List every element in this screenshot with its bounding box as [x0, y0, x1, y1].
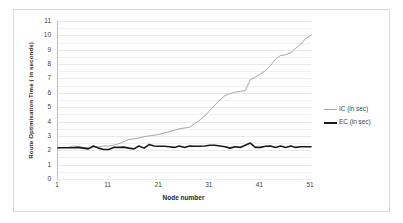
x-tick-label-21: 21 [155, 182, 162, 189]
y-axis-tick-labels: 01234567891011 [38, 15, 51, 181]
y-axis-title: Route Optimisation Time ( in seconds) [22, 10, 38, 190]
y-tick-label-8: 8 [38, 61, 51, 68]
y-tick-label-6: 6 [38, 90, 51, 97]
legend-label: EC (in sec) [339, 119, 371, 125]
x-axis-title: Node number [57, 194, 310, 201]
legend-item-ic[interactable]: IC (in sec) [324, 103, 386, 116]
x-tick-label-51: 51 [306, 182, 313, 189]
x-axis-tick-labels: 11121314151 [57, 182, 310, 194]
series-line-ec [58, 143, 311, 149]
y-tick-label-3: 3 [38, 133, 51, 140]
legend-item-ec[interactable]: EC (in sec) [324, 116, 386, 129]
y-tick-label-0: 0 [38, 176, 51, 183]
y-tick-label-4: 4 [38, 118, 51, 125]
chart-legend: IC (in sec)EC (in sec) [324, 103, 386, 129]
legend-label: IC (in sec) [339, 106, 368, 112]
gridline [58, 179, 311, 180]
x-tick-label-11: 11 [104, 182, 111, 189]
y-tick-label-5: 5 [38, 104, 51, 111]
y-tick-label-2: 2 [38, 147, 51, 154]
x-tick-label-41: 41 [256, 182, 263, 189]
series-line-ic [58, 35, 311, 148]
y-tick-label-9: 9 [38, 46, 51, 53]
legend-swatch-icon [324, 122, 337, 124]
y-tick-label-10: 10 [38, 32, 51, 39]
y-tick-label-11: 11 [38, 18, 51, 25]
y-axis-title-text: Route Optimisation Time ( in seconds) [27, 42, 34, 159]
y-tick-label-7: 7 [38, 75, 51, 82]
x-tick-label-31: 31 [205, 182, 212, 189]
legend-swatch-icon [324, 109, 337, 110]
y-tick-label-1: 1 [38, 161, 51, 168]
plot-series-svg [58, 21, 311, 179]
x-tick-label-1: 1 [55, 182, 59, 189]
chart-figure: Route Optimisation Time ( in seconds) 01… [0, 0, 403, 223]
plot-area [57, 21, 311, 180]
